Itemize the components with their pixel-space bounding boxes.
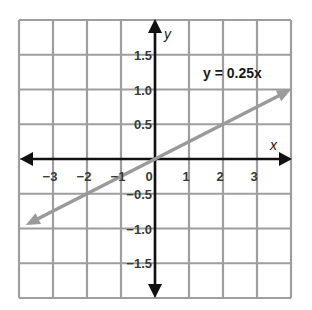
x-tick-label: −2 [77, 169, 92, 184]
y-tick-label: 1.0 [134, 83, 152, 98]
x-tick-label: 3 [250, 169, 257, 184]
y-tick-label: 1.5 [134, 48, 152, 63]
plot-line [26, 90, 291, 226]
x-tick-label: −1 [111, 169, 126, 184]
series-line [36, 95, 280, 220]
x-axis-left-arrow-icon [20, 152, 33, 166]
coordinate-plane: −3−2−101231.51.00.5−0.5−1.0−1.5 x y y = … [0, 0, 312, 310]
y-tick-label: 0.5 [134, 117, 152, 132]
x-tick-label: −3 [43, 169, 58, 184]
equation-label: y = 0.25x [203, 65, 262, 81]
x-axis-label: x [269, 137, 278, 153]
y-tick-label: −0.5 [126, 187, 152, 202]
x-tick-label: 0 [145, 169, 152, 184]
x-tick-label: 1 [182, 169, 189, 184]
x-tick-label: 2 [216, 169, 223, 184]
y-axis-label: y [163, 26, 172, 42]
y-tick-label: −1.0 [126, 222, 152, 237]
y-axis-down-arrow-icon [148, 284, 162, 298]
y-tick-label: −1.5 [126, 256, 152, 271]
